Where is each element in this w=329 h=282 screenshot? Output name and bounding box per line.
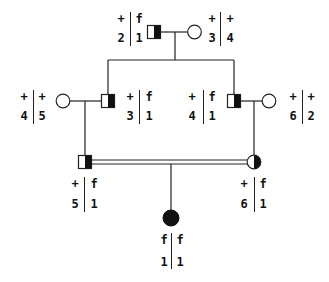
individual-II-3-male-square <box>228 95 241 108</box>
individual-II-2-male-square <box>102 95 115 108</box>
individual-I-1-male-square <box>148 26 161 39</box>
pedigree-diagram: + 2 f 1 + 3 + 4 + 4 + 5 + 3 f 1 + 4 f 1 … <box>0 0 329 282</box>
individual-III-1-male-square <box>79 156 92 169</box>
individual-II-4-female-circle <box>262 94 276 108</box>
individual-I-2-female-circle <box>188 25 202 39</box>
individual-II-1-female-circle <box>56 94 70 108</box>
individual-III-2-female-circle <box>247 155 261 169</box>
individual-IV-1-affected-female-circle <box>163 210 179 226</box>
